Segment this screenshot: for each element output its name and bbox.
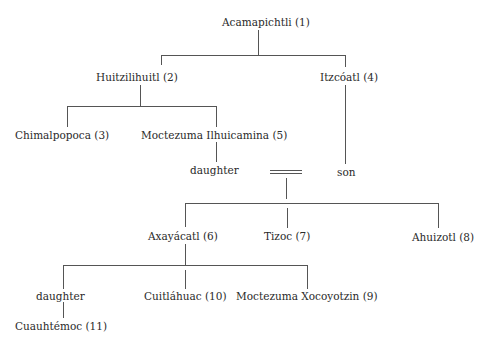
- node-huitzilihuitl: Huitzilihuitl (2): [96, 71, 178, 83]
- connector-line: [67, 106, 217, 107]
- connector-line: [63, 265, 308, 266]
- connector-line: [307, 265, 308, 289]
- connector-line: [63, 302, 64, 318]
- connector-line: [161, 55, 346, 56]
- connector-line: [216, 142, 217, 162]
- node-itzcoatl: Itzcóatl (4): [320, 71, 378, 83]
- node-son: son: [337, 166, 355, 178]
- connector-line: [140, 85, 141, 106]
- connector-line: [185, 244, 186, 265]
- connector-line: [67, 106, 68, 127]
- node-daughter-2: daughter: [36, 290, 85, 302]
- connector-line: [287, 208, 288, 228]
- node-acamapichtli: Acamapichtli (1): [222, 16, 310, 28]
- node-axayacatl: Axayácatl (6): [148, 230, 218, 242]
- marriage-line: [270, 173, 302, 174]
- node-daughter-1: daughter: [190, 164, 239, 176]
- node-tizoc: Tizoc (7): [264, 230, 310, 242]
- connector-line: [258, 30, 259, 55]
- connector-line: [216, 106, 217, 127]
- connector-line: [185, 203, 439, 204]
- connector-line: [185, 270, 186, 289]
- node-moctezuma-xocoyotzin: Moctezuma Xocoyotzin (9): [236, 290, 378, 302]
- node-moctezuma-ilhuicamina: Moctezuma Ilhuicamina (5): [141, 129, 287, 141]
- connector-line: [63, 265, 64, 289]
- marriage-line: [270, 170, 302, 171]
- connector-line: [161, 55, 162, 65]
- connector-line: [345, 55, 346, 67]
- connector-line: [185, 203, 186, 227]
- node-cuitlahuac: Cuitláhuac (10): [144, 290, 227, 302]
- connector-line: [286, 178, 287, 199]
- node-cuauhtemoc: Cuauhtémoc (11): [15, 320, 107, 332]
- node-chimalpopoca: Chimalpopoca (3): [15, 129, 109, 141]
- connector-line: [345, 85, 346, 164]
- genealogy-tree: Acamapichtli (1) Huitzilihuitl (2) Itzcó…: [0, 0, 482, 346]
- node-ahuizotl: Ahuizotl (8): [412, 231, 474, 243]
- connector-line: [438, 203, 439, 228]
